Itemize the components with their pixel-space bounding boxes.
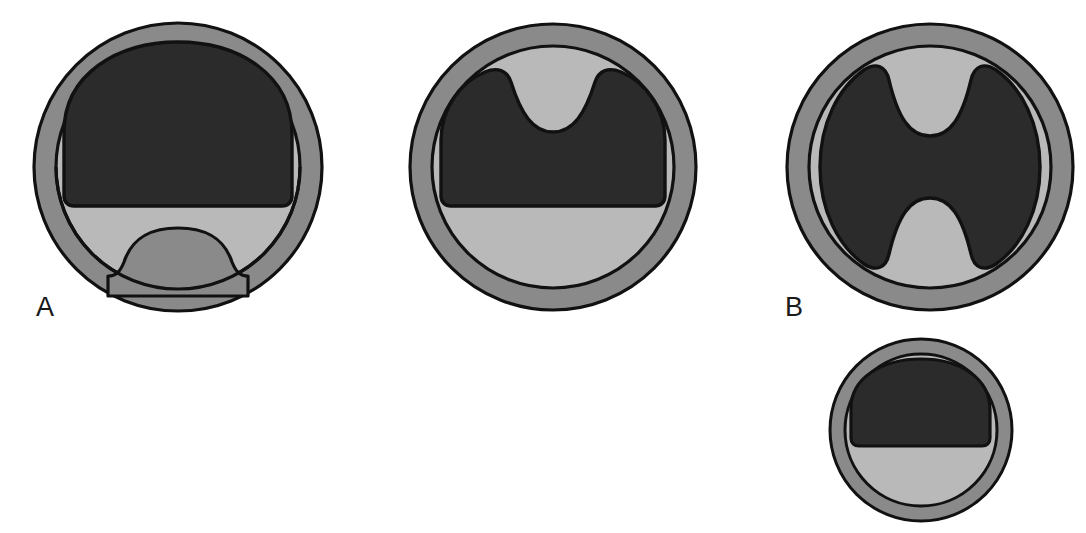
- dark-core-a: [64, 42, 292, 206]
- panel-label-a: A: [36, 294, 55, 321]
- figure-canvas: A B C: [0, 0, 1086, 533]
- panel-b: B: [375, 0, 735, 330]
- panel-c: C: [752, 0, 1086, 330]
- panel-c-graphic: [752, 0, 1086, 330]
- panel-a-graphic: [0, 0, 360, 330]
- panel-b-graphic: [375, 0, 735, 330]
- panel-d-graphic: [820, 330, 1030, 530]
- dark-core-d: [851, 359, 990, 446]
- panel-d-small-circle: [820, 330, 1030, 530]
- panel-a: A: [0, 0, 360, 330]
